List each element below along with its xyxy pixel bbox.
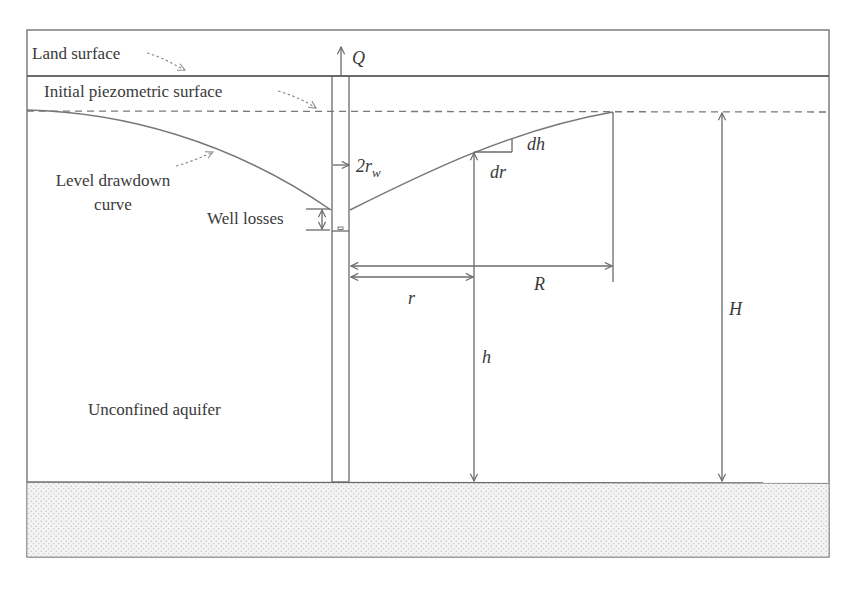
well-losses-label: Well losses — [207, 209, 284, 228]
well-diameter-symbol: 2rw — [356, 156, 381, 180]
impermeable-base — [28, 482, 829, 557]
initial-piezometric-surface-line — [27, 111, 829, 112]
well-casing — [332, 76, 349, 482]
land-surface-pointer — [147, 53, 185, 70]
drawdown-curve-left — [27, 110, 331, 210]
dh-symbol: dh — [527, 134, 545, 154]
drawdown-curve-right — [350, 112, 613, 210]
radius-symbol: r — [408, 288, 416, 308]
head-symbol: h — [482, 347, 491, 367]
initial-piezometric-surface-pointer — [278, 91, 316, 108]
discharge-symbol: Q — [352, 48, 365, 68]
level-drawdown-curve-label: Level drawdown — [56, 171, 171, 190]
level-drawdown-curve-label-line2: curve — [94, 195, 132, 214]
saturated-thickness-symbol: H — [728, 299, 743, 319]
dr-symbol: dr — [490, 162, 507, 182]
radius-of-influence-symbol: R — [533, 274, 545, 294]
land-surface-label: Land surface — [32, 44, 120, 63]
diagram-frame — [27, 30, 829, 557]
initial-piezometric-surface-label: Initial piezometric surface — [44, 82, 222, 101]
level-drawdown-curve-pointer — [176, 152, 213, 166]
aquifer-diagram: Q dh dr 2rw Well losses R r h H Land sur… — [0, 0, 852, 593]
unconfined-aquifer-label: Unconfined aquifer — [88, 400, 221, 419]
well-water-marker — [338, 227, 343, 230]
